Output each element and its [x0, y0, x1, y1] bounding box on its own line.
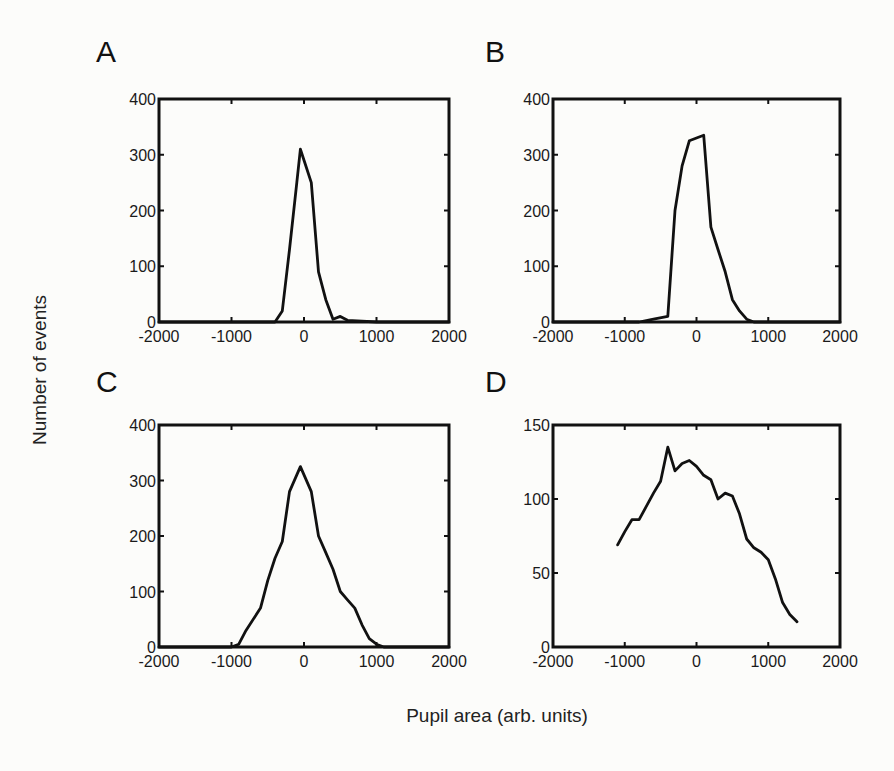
panel-c: C-2000-10000100020000100200300400 — [96, 365, 467, 670]
panel-label: C — [96, 365, 118, 398]
panel-label: B — [485, 35, 505, 68]
y-tick-label: 50 — [532, 565, 550, 582]
axes-frame — [553, 425, 840, 647]
y-tick-label: 0 — [541, 639, 550, 656]
panel-d: D-2000-1000010002000050100150 — [485, 365, 858, 670]
y-tick-label: 100 — [523, 258, 550, 275]
x-tick-label: -1000 — [604, 328, 645, 345]
x-tick-label: 1000 — [750, 653, 786, 670]
panel-b: B-2000-10000100020000100200300400 — [485, 35, 858, 345]
x-tick-label: -2000 — [533, 328, 574, 345]
x-tick-label: 0 — [300, 653, 309, 670]
x-tick-label: -2000 — [533, 653, 574, 670]
y-tick-label: 400 — [129, 417, 156, 434]
y-tick-label: 0 — [147, 639, 156, 656]
axes-frame — [159, 99, 449, 322]
data-series-line — [553, 135, 840, 322]
axes-frame — [553, 99, 840, 322]
y-tick-label: 200 — [523, 203, 550, 220]
figure-canvas: A-2000-10000100020000100200300400B-2000-… — [0, 0, 894, 771]
y-axis-label: Number of events — [29, 295, 50, 445]
y-tick-label: 0 — [147, 314, 156, 331]
x-tick-label: 1000 — [750, 328, 786, 345]
x-axis-label: Pupil area (arb. units) — [406, 705, 588, 726]
y-tick-label: 100 — [523, 491, 550, 508]
x-tick-label: 0 — [692, 328, 701, 345]
x-tick-label: 0 — [300, 328, 309, 345]
y-tick-label: 200 — [129, 528, 156, 545]
y-tick-label: 400 — [129, 91, 156, 108]
x-tick-label: -2000 — [139, 653, 180, 670]
x-tick-label: -1000 — [604, 653, 645, 670]
y-tick-label: 300 — [129, 473, 156, 490]
x-tick-label: 0 — [692, 653, 701, 670]
x-tick-label: -2000 — [139, 328, 180, 345]
panel-label: D — [485, 365, 507, 398]
x-tick-label: 2000 — [431, 653, 467, 670]
y-tick-label: 300 — [523, 147, 550, 164]
y-tick-label: 150 — [523, 417, 550, 434]
y-tick-label: 400 — [523, 91, 550, 108]
panel-a: A-2000-10000100020000100200300400 — [96, 35, 467, 345]
data-series-line — [159, 149, 449, 322]
y-tick-label: 100 — [129, 584, 156, 601]
data-series-line — [618, 447, 797, 622]
y-tick-label: 100 — [129, 258, 156, 275]
axes-frame — [159, 425, 449, 647]
y-tick-label: 0 — [541, 314, 550, 331]
x-tick-label: -1000 — [211, 328, 252, 345]
y-tick-label: 200 — [129, 203, 156, 220]
x-tick-label: 2000 — [822, 653, 858, 670]
panel-label: A — [96, 35, 116, 68]
x-tick-label: 2000 — [822, 328, 858, 345]
data-series-line — [159, 467, 449, 647]
y-tick-label: 300 — [129, 147, 156, 164]
x-tick-label: 1000 — [359, 328, 395, 345]
x-tick-label: 2000 — [431, 328, 467, 345]
x-tick-label: 1000 — [359, 653, 395, 670]
x-tick-label: -1000 — [211, 653, 252, 670]
